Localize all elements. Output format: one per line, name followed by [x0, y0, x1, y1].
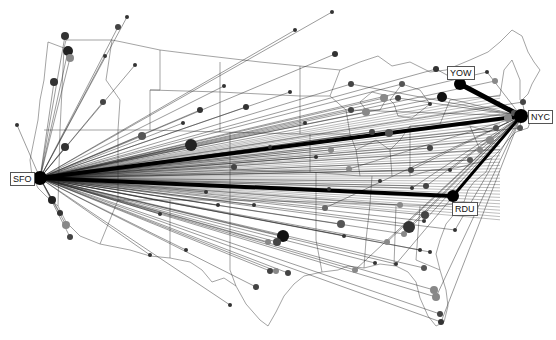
airport-node — [408, 167, 414, 173]
airport-node — [185, 139, 197, 151]
airport-node — [66, 54, 74, 62]
airport-node — [327, 187, 331, 191]
airport-node — [158, 212, 162, 216]
airport-node — [181, 121, 185, 125]
airport-node — [115, 24, 121, 30]
hub-node-nyc — [514, 109, 528, 123]
airport-node — [380, 94, 388, 102]
airport-node — [378, 179, 382, 183]
airport-node — [216, 203, 220, 207]
airport-node — [430, 286, 438, 294]
airport-node — [362, 108, 370, 116]
airport-node — [231, 164, 237, 170]
hub-label-yow: YOW — [447, 66, 475, 80]
airport-node — [288, 90, 292, 94]
airport-node — [303, 121, 307, 125]
hub-node-sfo — [33, 171, 47, 185]
airport-node — [252, 203, 256, 207]
airport-node — [517, 125, 523, 131]
hub-label-nyc: NYC — [528, 110, 553, 124]
airport-node — [197, 107, 203, 113]
airport-node — [410, 186, 414, 190]
airport-node — [453, 228, 457, 232]
airport-node — [385, 129, 393, 137]
airport-node — [15, 123, 19, 127]
hub-label-rdu: RDU — [452, 202, 478, 216]
airport-node — [61, 143, 69, 151]
airport-node — [222, 84, 226, 88]
airport-node — [346, 166, 352, 172]
airport-node — [428, 250, 432, 254]
airport-node — [285, 270, 291, 276]
airport-node — [314, 155, 318, 159]
airport-node — [485, 70, 489, 74]
airport-node — [67, 234, 73, 240]
airport-node — [273, 238, 281, 246]
airport-node — [422, 219, 426, 223]
airport-node — [184, 248, 188, 252]
airport-node — [48, 196, 56, 204]
airport-node — [395, 95, 401, 101]
airport-node — [268, 145, 272, 149]
airport-node — [384, 239, 390, 245]
airport-node — [394, 262, 398, 266]
airport-node — [125, 15, 129, 19]
airport-node — [373, 261, 377, 265]
airport-node — [267, 268, 273, 274]
airport-node — [433, 66, 439, 72]
airport-node — [438, 319, 444, 325]
airport-node — [337, 220, 345, 228]
airport-node — [428, 102, 432, 106]
airport-node — [204, 190, 208, 194]
airport-node — [138, 132, 146, 140]
airport-node — [322, 205, 328, 211]
airport-node — [399, 81, 405, 87]
airport-node — [493, 125, 499, 131]
airport-node — [421, 211, 429, 219]
airport-node — [486, 136, 494, 144]
airport-node — [348, 81, 354, 87]
airport-node — [133, 63, 137, 67]
airport-node — [437, 92, 447, 102]
airport-node — [50, 78, 58, 86]
airport-node — [62, 221, 70, 229]
airport-node — [520, 99, 526, 105]
airport-node — [401, 231, 407, 237]
airport-node — [330, 10, 334, 14]
airport-node — [477, 147, 483, 153]
airport-node — [448, 168, 452, 172]
route-map — [0, 0, 556, 340]
airport-node — [148, 253, 152, 257]
airport-node — [273, 268, 279, 274]
airport-node — [421, 265, 427, 271]
airport-node — [504, 114, 512, 122]
airport-node — [253, 284, 259, 290]
airport-node — [61, 32, 69, 40]
airport-node — [467, 157, 473, 163]
airport-node — [437, 311, 443, 317]
hub-node-rdu — [447, 190, 459, 202]
airport-node — [332, 51, 338, 57]
airport-node — [432, 293, 440, 301]
airport-node — [243, 104, 249, 110]
airport-node — [397, 202, 403, 208]
airport-node — [228, 303, 232, 307]
airport-node — [427, 145, 433, 151]
airport-node — [103, 54, 107, 58]
airport-node — [293, 28, 297, 32]
airport-node — [352, 267, 358, 273]
flight-routes — [17, 12, 523, 322]
airport-node — [492, 78, 498, 84]
airport-node — [342, 234, 346, 238]
airport-node — [57, 210, 63, 216]
airport-node — [328, 147, 334, 153]
hub-label-sfo: SFO — [10, 172, 35, 186]
airport-node — [369, 129, 375, 135]
airport-node — [348, 107, 354, 113]
airport-node — [418, 248, 422, 252]
airport-node — [265, 239, 271, 245]
airport-node — [100, 99, 106, 105]
airport-node — [423, 183, 429, 189]
